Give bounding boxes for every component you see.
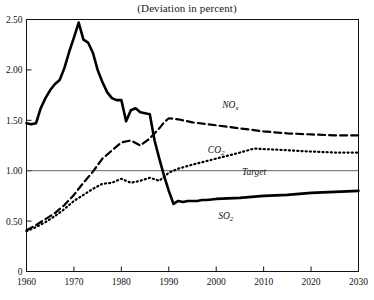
series-line-co2 bbox=[27, 149, 359, 232]
annotation-co: CO2 bbox=[208, 145, 225, 157]
y-tick-label: 1.00 bbox=[6, 166, 23, 176]
series-line-so2 bbox=[27, 23, 359, 204]
annotation-no: NOx bbox=[221, 100, 239, 112]
y-tick-label: 0.50 bbox=[6, 217, 23, 227]
series-annotations: NOxCO2TargetSO2 bbox=[208, 100, 267, 223]
x-tick-label: 2020 bbox=[302, 277, 321, 287]
y-tick-label: 1.50 bbox=[6, 116, 23, 126]
chart-figure: (Deviation in percent) 00.501.001.502.00… bbox=[0, 0, 374, 300]
x-tick-label: 1960 bbox=[17, 277, 36, 287]
y-tick-label: 2.00 bbox=[6, 65, 23, 75]
annotation-so: SO2 bbox=[218, 211, 234, 223]
plot-frame bbox=[27, 20, 359, 272]
chart-canvas: 00.501.001.502.002.50 196019701980199020… bbox=[0, 0, 374, 300]
x-tick-label: 1990 bbox=[159, 277, 178, 287]
x-tick-label: 1980 bbox=[112, 277, 131, 287]
series-paths bbox=[27, 23, 359, 232]
series-line-nox bbox=[27, 118, 359, 230]
x-axis-ticks: 19601970198019902000201020202030 bbox=[17, 267, 368, 287]
y-tick-label: 0 bbox=[18, 267, 23, 277]
y-axis-ticks: 00.501.001.502.002.50 bbox=[6, 15, 32, 277]
y-tick-label: 2.50 bbox=[6, 15, 23, 25]
x-tick-label: 2000 bbox=[207, 277, 226, 287]
x-tick-label: 2010 bbox=[254, 277, 273, 287]
annotation-target: Target bbox=[242, 167, 266, 177]
x-tick-label: 1970 bbox=[64, 277, 83, 287]
x-tick-label: 2030 bbox=[349, 277, 368, 287]
